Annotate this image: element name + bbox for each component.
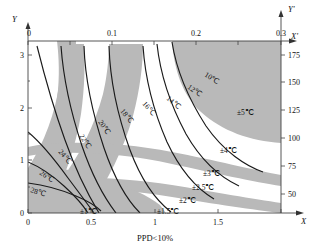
y-axis-arrow-icon (26, 22, 31, 29)
tolerance-label-15: ±1.5℃ (157, 207, 180, 216)
x-axis-label: X (300, 216, 307, 226)
top-axis-tick-labels: 0 0.1 0.2 0.3 (27, 29, 286, 38)
right-tick-125: 125 (288, 106, 300, 115)
left-axis-tick-labels: 3 2 1 0 (20, 51, 24, 218)
tolerance-label-3: ±3℃ (203, 169, 220, 178)
nomogram-svg: 10℃ 12℃ 14℃ 16℃ 18℃ 20℃ 22℃ 24℃ 26℃ 28℃ … (0, 0, 315, 247)
bottom-tick-15: 1.5 (213, 218, 223, 227)
right-axis-tick-labels: 175 150 125 100 75 50 (288, 51, 300, 199)
top-tick-0: 0 (27, 29, 31, 38)
y-axis-label: Y (12, 14, 18, 24)
shaded-band-top-right (172, 41, 281, 143)
right-tick-75: 75 (288, 162, 296, 171)
x-axis-arrow-icon (296, 211, 304, 216)
x-prime-axis-label: X' (290, 31, 298, 41)
top-tick-03: 0.3 (276, 29, 286, 38)
tolerance-label-1: ±1℃ (80, 207, 97, 216)
bottom-tick-05: 0.5 (86, 218, 96, 227)
bottom-axis-tick-labels: 0 0.5 1 1.5 (26, 218, 223, 227)
tolerance-label-25: ±2.5℃ (192, 183, 215, 192)
right-axis-ticks (281, 55, 285, 194)
chart-caption: PPD<10% (137, 233, 173, 243)
tolerance-label-5: ±5℃ (237, 108, 254, 117)
right-tick-100: 100 (288, 134, 300, 143)
left-tick-3: 3 (20, 51, 24, 60)
left-tick-1: 1 (20, 156, 24, 165)
bottom-tick-1: 1 (153, 218, 157, 227)
right-tick-50: 50 (288, 190, 296, 199)
top-tick-02: 0.2 (191, 29, 201, 38)
left-tick-0: 0 (20, 209, 24, 218)
right-tick-150: 150 (288, 78, 300, 87)
tolerance-label-4: ±4℃ (220, 146, 237, 155)
right-tick-175: 175 (288, 51, 300, 60)
bottom-tick-0: 0 (26, 218, 30, 227)
top-tick-01: 0.1 (107, 29, 117, 38)
tolerance-label-2: ±2℃ (179, 196, 196, 205)
chart-container: 10℃ 12℃ 14℃ 16℃ 18℃ 20℃ 22℃ 24℃ 26℃ 28℃ … (0, 0, 315, 247)
y-prime-axis-arrow-icon (279, 10, 284, 17)
left-tick-2: 2 (20, 104, 24, 113)
isotherm-label-16: 16℃ (141, 99, 159, 117)
y-prime-axis-label: Y' (288, 4, 295, 14)
